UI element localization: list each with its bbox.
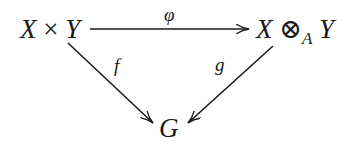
symbol-y: Y bbox=[65, 14, 80, 44]
symbol-y: Y bbox=[319, 14, 334, 44]
arrow-f bbox=[68, 43, 153, 123]
node-x-tensor-y: X ⊗A Y bbox=[256, 16, 334, 43]
symbol-x: X bbox=[20, 14, 37, 44]
commutative-diagram: X × Y X ⊗A Y G φ f g bbox=[0, 0, 350, 145]
label-f: f bbox=[114, 56, 119, 75]
symbol-x: X bbox=[256, 14, 273, 44]
label-phi: φ bbox=[164, 5, 175, 24]
label-g: g bbox=[215, 55, 225, 74]
symbol-otimes: ⊗ bbox=[279, 14, 302, 44]
arrow-g bbox=[188, 46, 273, 123]
symbol-times: × bbox=[43, 14, 58, 44]
node-g: G bbox=[159, 115, 179, 142]
subscript-a: A bbox=[302, 29, 312, 48]
node-x-times-y: X × Y bbox=[20, 16, 80, 43]
